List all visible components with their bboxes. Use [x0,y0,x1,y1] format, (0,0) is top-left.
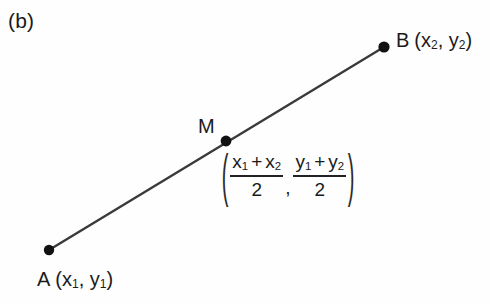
x-variable: x [265,151,275,172]
x-subscript-two: 2 [275,160,281,172]
paren-close: ) [466,29,473,51]
plus-sign: + [311,151,328,172]
point-m-label: M [198,116,215,136]
formula-paren-close: ) [347,147,356,205]
point-b-label: B(x2, y2) [396,30,472,51]
plus-sign: + [248,151,265,172]
comma-separator: , [79,268,85,290]
point-a-label: A(x1, y1) [37,269,113,290]
x-midpoint-fraction: x1+x2 2 [230,152,283,200]
paren-open: ( [414,29,421,51]
x-denominator: 2 [251,177,262,200]
x-variable: x [421,29,431,51]
point-a-coordinates: (x1, y1) [55,268,113,290]
x-subscript: 1 [72,277,79,291]
paren-close: ) [107,268,114,290]
comma-separator: , [438,29,444,51]
y-midpoint-fraction: y1+y2 2 [293,152,346,200]
point-a-dot [44,245,54,255]
midpoint-formula: ( x1+x2 2 , y1+y2 2 ) [221,152,356,200]
y-subscript: 1 [100,277,107,291]
y-denominator: 2 [315,177,326,200]
point-b-name: B [396,29,409,51]
paren-open: ( [55,268,62,290]
x-variable: x [62,268,72,290]
y-variable: y [90,268,100,290]
x-numerator: x1+x2 [230,152,283,175]
point-b-dot [378,41,389,52]
midpoint-figure: (b) B(x2, y2) A(x1, y1) M ( x1+x2 2 , y1… [0,0,490,304]
point-b-coordinates: (x2, y2) [414,29,472,51]
y-variable: y [449,29,459,51]
y-subscript: 2 [459,38,466,52]
y-variable: y [328,151,338,172]
formula-comma: , [284,177,292,200]
y-subscript-two: 2 [338,160,344,172]
segment-ab [49,47,384,250]
formula-paren-open: ( [221,147,230,205]
point-a-name: A [37,268,50,290]
y-numerator: y1+y2 [293,152,346,175]
panel-label: (b) [8,10,34,31]
x-subscript: 2 [431,38,438,52]
x-variable: x [232,151,242,172]
y-variable: y [295,151,305,172]
